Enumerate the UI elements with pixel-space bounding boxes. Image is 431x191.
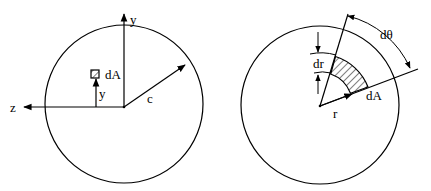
polar-origin-point <box>319 105 322 108</box>
right-diagram: r dA dr dθ <box>241 14 418 184</box>
radius-c-arrow <box>124 65 185 107</box>
dr-label: dr <box>313 56 325 71</box>
z-axis-label: z <box>10 100 16 115</box>
origin-point <box>123 106 126 109</box>
y-axis-label: y <box>130 12 137 27</box>
radius-r-label: r <box>333 106 338 121</box>
dtheta-label: dθ <box>380 27 393 42</box>
area-element-label: dA <box>105 67 122 82</box>
distance-y-label: y <box>99 86 106 101</box>
figure-canvas: y z c dA y r dA dr dθ <box>0 0 431 191</box>
radius-c-label: c <box>147 91 153 106</box>
left-diagram: y z c dA y <box>10 12 203 183</box>
polar-area-label: dA <box>366 88 383 103</box>
dr-extension-inner <box>314 72 331 73</box>
polar-area-element <box>331 57 368 94</box>
area-element-square <box>91 70 99 78</box>
radius-r-arrow <box>320 94 352 106</box>
dtheta-arc <box>348 16 410 68</box>
dr-extension-outer <box>310 53 336 55</box>
